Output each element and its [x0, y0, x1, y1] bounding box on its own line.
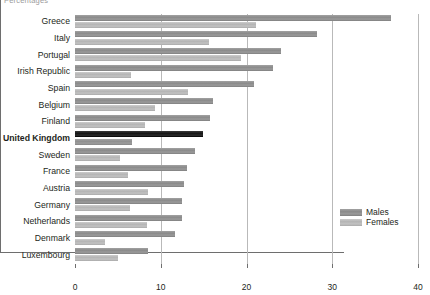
category-label: Irish Republic — [17, 67, 70, 76]
chart-row: Spain — [75, 81, 418, 98]
chart-row: France — [75, 164, 418, 181]
bar-females — [75, 105, 155, 111]
bar-males — [75, 198, 182, 204]
bar-females — [75, 255, 118, 261]
y-axis-line — [0, 0, 1, 252]
chart-legend: Males Females — [340, 207, 399, 227]
category-label: Portugal — [38, 51, 70, 60]
bar-males — [75, 148, 195, 154]
bar-males — [75, 48, 281, 54]
bar-males — [75, 181, 184, 187]
bar-females — [75, 22, 256, 28]
bar-females — [75, 189, 148, 195]
bar-males — [75, 98, 213, 104]
bar-females — [75, 122, 145, 128]
bar-males — [75, 115, 210, 121]
x-axis-tick — [247, 264, 248, 268]
x-axis-tick-label: 0 — [73, 282, 78, 292]
chart-row: Belgium — [75, 97, 418, 114]
category-label: Denmark — [35, 234, 70, 243]
x-axis-tick — [332, 264, 333, 268]
category-label: Finland — [42, 117, 71, 126]
x-axis-tick-label: 10 — [156, 282, 165, 292]
legend-swatch-females — [340, 219, 362, 226]
bar-males — [75, 65, 273, 71]
x-axis-tick-label: 20 — [242, 282, 251, 292]
category-label: United Kingdom — [3, 134, 70, 143]
category-label: Belgium — [39, 101, 70, 110]
bar-males — [75, 31, 317, 37]
bar-males — [75, 131, 203, 137]
chart-row: Irish Republic — [75, 64, 418, 81]
chart-row: Sweden — [75, 147, 418, 164]
chart-row: Portugal — [75, 47, 418, 64]
category-label: Germany — [34, 201, 70, 210]
category-label: Spain — [48, 84, 70, 93]
bar-females — [75, 139, 132, 145]
chart-row: Austria — [75, 181, 418, 198]
bar-females — [75, 239, 105, 245]
category-label: Italy — [54, 34, 70, 43]
bar-females — [75, 72, 131, 78]
x-axis-tick-label: 40 — [413, 282, 422, 292]
x-axis-tick — [75, 264, 76, 268]
bar-males — [75, 15, 391, 21]
legend-label-males: Males — [366, 207, 389, 217]
chart-row: Luxembourg — [75, 247, 418, 264]
category-label: France — [43, 167, 70, 176]
chart-row: Finland — [75, 114, 418, 131]
bar-females — [75, 89, 188, 95]
category-label: Austria — [43, 184, 70, 193]
x-axis-tick-label: 30 — [328, 282, 337, 292]
category-label: Netherlands — [23, 217, 70, 226]
bar-females — [75, 205, 130, 211]
category-label: Luxembourg — [22, 251, 70, 260]
legend-label-females: Females — [366, 217, 399, 227]
chart-caption: Percentages — [4, 0, 48, 5]
bar-females — [75, 222, 147, 228]
bar-males — [75, 231, 175, 237]
x-axis-tick — [161, 264, 162, 268]
legend-swatch-males — [340, 209, 362, 216]
chart-row: United Kingdom — [75, 131, 418, 148]
bar-females — [75, 172, 128, 178]
bar-males — [75, 165, 187, 171]
bar-chart: Percentages 010203040GreeceItalyPortugal… — [0, 0, 430, 295]
bar-males — [75, 248, 148, 254]
bar-females — [75, 55, 241, 61]
category-label: Sweden — [39, 151, 70, 160]
bar-males — [75, 215, 182, 221]
chart-row: Greece — [75, 14, 418, 31]
bar-females — [75, 39, 209, 45]
gridline — [418, 14, 419, 264]
legend-item-males: Males — [340, 207, 399, 217]
legend-item-females: Females — [340, 217, 399, 227]
category-label: Greece — [42, 17, 71, 26]
bar-females — [75, 155, 120, 161]
bar-males — [75, 81, 254, 87]
chart-row: Italy — [75, 31, 418, 48]
x-axis-tick — [418, 264, 419, 268]
chart-row: Denmark — [75, 231, 418, 248]
